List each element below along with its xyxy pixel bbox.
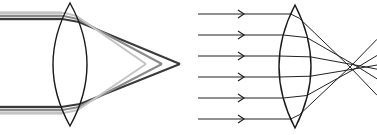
converging-lens	[279, 5, 311, 128]
spherical-aberration-figure	[198, 5, 377, 128]
optics-diagram	[0, 0, 377, 135]
chromatic-aberration-figure	[0, 3, 180, 126]
